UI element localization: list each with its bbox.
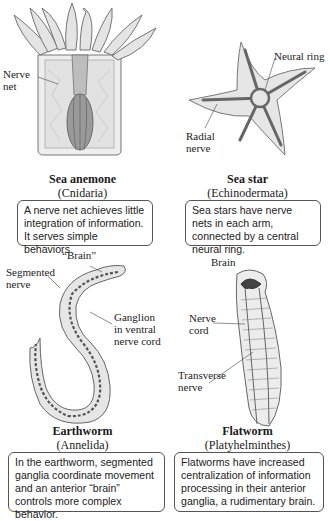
panel-taxon-echinodermata: (Echinodermata) bbox=[165, 186, 330, 200]
label-line: Segmented bbox=[6, 266, 55, 278]
label-line: Transverse bbox=[178, 369, 226, 381]
panel-name-sea-anemone: Sea anemone bbox=[0, 172, 165, 186]
panel-name-sea-star: Sea star bbox=[165, 172, 330, 186]
panel-taxon-cnidaria: (Cnidaria) bbox=[0, 186, 165, 200]
description-box-earthworm: In the earthworm, segmented ganglia coor… bbox=[8, 452, 165, 512]
label-line: cord bbox=[189, 324, 216, 336]
label-nerve-net: Nerve net bbox=[3, 68, 30, 92]
label-brain-quoted: “Brain” bbox=[62, 249, 96, 261]
label-neural-ring: Neural ring bbox=[274, 50, 324, 62]
label-transverse-nerve: Transverse nerve bbox=[178, 369, 226, 393]
label-line: Radial bbox=[186, 130, 215, 142]
label-line: nerve bbox=[6, 278, 55, 290]
label-brain: Brain bbox=[211, 256, 235, 268]
panel-taxon-platyhelminthes: (Platyhelminthes) bbox=[165, 438, 330, 452]
label-line: net bbox=[3, 80, 30, 92]
label-radial-nerve: Radial nerve bbox=[186, 130, 215, 154]
label-line: nerve bbox=[178, 381, 226, 393]
panel-taxon-annelida: (Annelida) bbox=[0, 438, 165, 452]
label-line: in ventral bbox=[114, 323, 161, 335]
description-box-flatworm: Flatworms have increased centralization … bbox=[174, 452, 324, 512]
description-box-sea-star: Sea stars have nerve nets in each arm, c… bbox=[185, 200, 321, 246]
label-nerve-cord: Nerve cord bbox=[189, 312, 216, 336]
label-line: nerve cord bbox=[114, 335, 161, 347]
label-segmented-nerve: Segmented nerve bbox=[6, 266, 55, 290]
label-line: Nerve bbox=[189, 312, 216, 324]
panel-name-earthworm: Earthworm bbox=[0, 424, 165, 438]
label-line: Ganglion bbox=[114, 311, 161, 323]
description-box-sea-anemone: A nerve net achieves little integration … bbox=[17, 200, 153, 246]
label-line: nerve bbox=[186, 142, 215, 154]
label-ganglion: Ganglion in ventral nerve cord bbox=[114, 311, 161, 347]
panel-name-flatworm: Flatworm bbox=[165, 424, 330, 438]
label-line: Nerve bbox=[3, 68, 30, 80]
